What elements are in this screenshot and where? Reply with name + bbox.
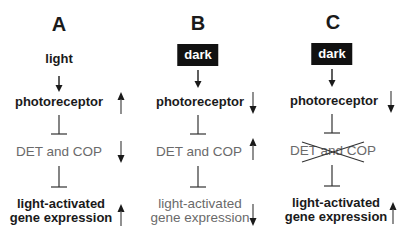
gene-expression-node: light-activated gene expression [285,196,388,224]
gene-expression-node: light-activated gene expression [10,197,113,225]
det-cop-node: DET and COP [16,145,102,159]
up-arrow-icon [248,138,258,160]
column-label-c: C [326,11,340,34]
gene-expression-line2: gene expression [10,211,113,225]
activation-arrow-icon [54,76,64,92]
gene-expression-line2: gene expression [285,210,388,224]
gene-expression-line1: light-activated [10,197,113,211]
down-arrow-icon [386,91,396,113]
gene-expression-node: light-activated gene expression [150,197,249,225]
activation-arrow-icon [327,69,337,87]
signal-light: light [45,51,72,66]
column-label-a: A [52,13,66,36]
activation-arrow-icon [193,70,203,88]
det-cop-node: DET and COP [156,145,242,159]
down-arrow-icon [248,204,258,226]
photoreceptor-node: photoreceptor [290,94,378,108]
photoreceptor-node: photoreceptor [156,95,244,109]
signal-dark-box: dark [177,44,218,66]
cross-out-icon [300,140,366,168]
gene-expression-line1: light-activated [150,197,249,211]
inhibition-bar-icon [323,114,341,134]
inhibition-bar-icon [50,115,68,135]
down-arrow-icon [248,92,258,114]
inhibition-bar-icon [323,165,341,187]
down-arrow-icon [116,141,126,163]
column-label-b: B [191,12,205,35]
signal-dark-box: dark [311,43,352,65]
up-arrow-icon [116,92,126,114]
photoreceptor-node: photoreceptor [15,95,103,109]
inhibition-bar-icon [189,115,207,135]
up-arrow-icon [116,204,126,226]
gene-expression-line1: light-activated [285,196,388,210]
inhibition-bar-icon [50,166,68,188]
inhibition-bar-icon [189,166,207,188]
up-arrow-icon [388,202,398,224]
gene-expression-line2: gene expression [150,211,249,225]
